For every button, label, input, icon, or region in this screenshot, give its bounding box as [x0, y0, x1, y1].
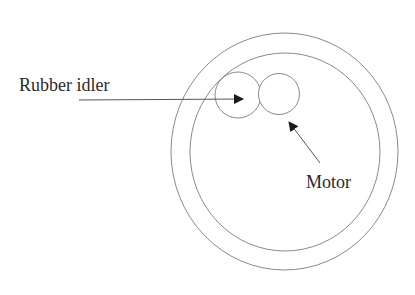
turntable-drive-diagram: [0, 0, 415, 295]
motor-pulley: [259, 74, 300, 115]
rubber-idler-wheel: [215, 72, 261, 118]
diagram-canvas: Rubber idler Motor: [0, 0, 415, 295]
rubber-idler-label: Rubber idler: [19, 76, 109, 94]
motor-pointer-arrow: [289, 122, 320, 163]
turntable-outer-rim: [171, 33, 398, 270]
motor-label: Motor: [306, 173, 351, 191]
